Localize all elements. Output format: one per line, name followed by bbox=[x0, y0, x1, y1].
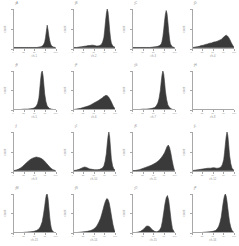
y-axis-max-label: 1 bbox=[134, 65, 135, 68]
x-axis-tick-label: 100 bbox=[173, 112, 177, 115]
histogram-series bbox=[133, 132, 175, 171]
x-axis-tick-label: 0 bbox=[131, 174, 132, 177]
histogram-series bbox=[14, 9, 56, 48]
y-axis-tick bbox=[190, 71, 192, 72]
x-axis-tick-label: 100 bbox=[54, 112, 58, 115]
x-axis-tick-label: 50 bbox=[211, 51, 214, 54]
x-axis-tick-label: 100 bbox=[232, 51, 236, 54]
y-axis-label: count bbox=[63, 210, 66, 217]
histogram-panel: P10255075100countch-16 bbox=[179, 185, 239, 246]
y-axis-label: count bbox=[63, 25, 66, 32]
x-axis-tick-label: 100 bbox=[173, 174, 177, 177]
y-axis-label: count bbox=[4, 87, 7, 94]
histogram-series bbox=[74, 71, 116, 110]
y-axis-tick bbox=[11, 172, 13, 173]
x-axis-tick-label: 0 bbox=[72, 174, 73, 177]
x-axis-tick-label: 0 bbox=[12, 51, 13, 54]
x-axis-tick-label: 100 bbox=[232, 112, 236, 115]
y-axis-label: count bbox=[4, 210, 7, 217]
x-axis-tick-label: 50 bbox=[33, 235, 36, 238]
x-axis-tick-label: 50 bbox=[152, 174, 155, 177]
y-axis-tick bbox=[190, 132, 192, 133]
x-axis-tick-label: 0 bbox=[191, 112, 192, 115]
histogram-series bbox=[133, 71, 175, 110]
y-axis-max-label: 1 bbox=[194, 3, 195, 6]
histogram-series bbox=[193, 194, 235, 233]
x-axis-tick-label: 50 bbox=[33, 112, 36, 115]
x-axis-tick-label: 100 bbox=[173, 235, 177, 238]
x-axis-tick-label: 75 bbox=[163, 235, 166, 238]
y-axis-tick bbox=[130, 213, 132, 214]
x-axis-tick-label: 25 bbox=[201, 174, 204, 177]
x-axis-tick-label: 100 bbox=[173, 51, 177, 54]
y-axis-max-label: 1 bbox=[15, 65, 16, 68]
x-axis-tick-label: 75 bbox=[222, 235, 225, 238]
x-axis-tick-label: 75 bbox=[222, 174, 225, 177]
x-axis-label: ch-7 bbox=[151, 116, 156, 119]
y-axis-tick bbox=[130, 29, 132, 30]
y-axis-tick bbox=[130, 152, 132, 153]
y-axis-tick bbox=[130, 49, 132, 50]
x-axis-tick-label: 100 bbox=[113, 51, 117, 54]
y-axis-tick bbox=[130, 9, 132, 10]
x-axis-label: ch-16 bbox=[209, 239, 216, 242]
plot-area: F10255075100countch-6 bbox=[73, 71, 116, 111]
y-axis-tick bbox=[130, 132, 132, 133]
y-axis-label: count bbox=[123, 210, 126, 217]
y-axis-tick bbox=[11, 110, 13, 111]
histogram-panel: G10255075100countch-7 bbox=[119, 62, 179, 124]
histogram-panel-grid: A10255075100countch-1B10255075100countch… bbox=[0, 0, 238, 246]
x-axis-tick-label: 75 bbox=[222, 51, 225, 54]
histogram-series bbox=[14, 132, 56, 171]
histogram-series bbox=[193, 132, 235, 171]
y-axis-tick bbox=[130, 90, 132, 91]
y-axis-tick bbox=[130, 71, 132, 72]
x-axis-tick-label: 25 bbox=[22, 235, 25, 238]
y-axis-label: count bbox=[63, 148, 66, 155]
x-axis-tick-label: 0 bbox=[72, 112, 73, 115]
x-axis-tick-label: 75 bbox=[163, 174, 166, 177]
x-axis-tick-label: 50 bbox=[152, 112, 155, 115]
x-axis-label: ch-5 bbox=[32, 116, 37, 119]
x-axis-tick-label: 100 bbox=[232, 174, 236, 177]
x-axis-label: ch-15 bbox=[150, 239, 157, 242]
y-axis-tick bbox=[71, 49, 73, 50]
x-axis-tick-label: 50 bbox=[211, 112, 214, 115]
histogram-series bbox=[133, 9, 175, 48]
y-axis-tick bbox=[11, 49, 13, 50]
x-axis-tick-label: 75 bbox=[44, 51, 47, 54]
x-axis-tick-label: 100 bbox=[113, 174, 117, 177]
x-axis-tick-label: 0 bbox=[131, 235, 132, 238]
plot-area: J10255075100countch-10 bbox=[73, 132, 116, 172]
y-axis-tick bbox=[71, 110, 73, 111]
x-axis-tick-label: 75 bbox=[44, 112, 47, 115]
y-axis-label: count bbox=[4, 25, 7, 32]
x-axis-label: ch-3 bbox=[151, 55, 156, 58]
y-axis-tick bbox=[130, 110, 132, 111]
x-axis-tick-label: 100 bbox=[232, 235, 236, 238]
x-axis-label: ch-8 bbox=[210, 116, 215, 119]
x-axis-tick-label: 100 bbox=[113, 112, 117, 115]
x-axis-tick-label: 100 bbox=[113, 235, 117, 238]
y-axis-max-label: 1 bbox=[134, 188, 135, 191]
y-axis-tick bbox=[11, 29, 13, 30]
x-axis-tick-label: 50 bbox=[152, 235, 155, 238]
x-axis-tick-label: 100 bbox=[54, 235, 58, 238]
x-axis-label: ch-9 bbox=[32, 178, 37, 181]
x-axis-tick-label: 0 bbox=[12, 174, 13, 177]
histogram-panel: J10255075100countch-10 bbox=[60, 123, 120, 185]
histogram-panel: C10255075100countch-3 bbox=[119, 0, 179, 62]
y-axis-tick bbox=[71, 9, 73, 10]
y-axis-tick bbox=[71, 194, 73, 195]
x-axis-label: ch-2 bbox=[91, 55, 96, 58]
x-axis-label: ch-6 bbox=[91, 116, 96, 119]
y-axis-max-label: 1 bbox=[134, 126, 135, 129]
y-axis-tick bbox=[130, 233, 132, 234]
y-axis-label: count bbox=[123, 148, 126, 155]
y-axis-tick bbox=[130, 172, 132, 173]
y-axis-label: count bbox=[4, 148, 7, 155]
y-axis-label: count bbox=[182, 25, 185, 32]
y-axis-tick bbox=[190, 110, 192, 111]
histogram-series bbox=[193, 71, 235, 110]
y-axis-tick bbox=[71, 213, 73, 214]
